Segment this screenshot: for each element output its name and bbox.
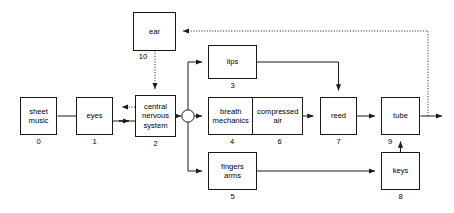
summing-junction xyxy=(182,110,194,122)
node-fingers-arms-line-0: fingers xyxy=(221,162,244,171)
node-tube[interactable]: tube xyxy=(381,97,420,135)
node-fingers-arms[interactable]: fingers arms xyxy=(208,152,257,190)
edge-lips-reed xyxy=(257,62,339,91)
node-eyes-line-0: eyes xyxy=(86,111,102,120)
node-cns-number: 2 xyxy=(135,139,176,148)
node-breath-air-group: breath mechanics compressed air xyxy=(208,97,303,135)
node-breath-mechanics-number: 4 xyxy=(208,137,256,146)
node-cns-line-0: central xyxy=(144,102,167,111)
node-eyes-number: 1 xyxy=(76,137,113,146)
node-central-nervous-system[interactable]: central nervous system xyxy=(135,95,176,137)
node-lips-number: 3 xyxy=(208,81,257,90)
node-sheet-music-line-0: sheet xyxy=(29,107,48,116)
node-breath-mechanics[interactable]: breath mechanics xyxy=(209,98,252,134)
node-tube-line-0: tube xyxy=(393,111,408,120)
block-diagram: sheet music 0 eyes 1 central nervous sys… xyxy=(0,0,454,213)
node-compressed-air-number: 6 xyxy=(256,137,303,146)
node-sheet-music-number: 0 xyxy=(20,137,57,146)
node-eyes[interactable]: eyes xyxy=(76,97,113,135)
node-keys-line-0: keys xyxy=(393,166,409,175)
junction-spine-down xyxy=(188,122,202,171)
node-reed[interactable]: reed xyxy=(320,97,357,135)
node-compressed-air-line-0: compressed xyxy=(257,107,298,116)
node-sheet-music-line-1: music xyxy=(29,116,49,125)
node-reed-line-0: reed xyxy=(331,111,346,120)
node-reed-number: 7 xyxy=(320,137,357,146)
node-breath-mechanics-line-1: mechanics xyxy=(213,116,249,125)
node-fingers-arms-line-1: arms xyxy=(224,171,241,180)
node-ear-number: 10 xyxy=(128,52,158,61)
node-lips-line-0: lips xyxy=(227,57,238,66)
node-breath-mechanics-line-0: breath xyxy=(220,107,242,116)
node-ear-line-0: ear xyxy=(149,27,160,36)
node-compressed-air-line-1: air xyxy=(274,116,282,125)
node-cns-line-2: system xyxy=(143,121,167,130)
node-cns-line-1: nervous xyxy=(142,111,169,120)
node-compressed-air[interactable]: compressed air xyxy=(252,98,302,134)
node-fingers-arms-number: 5 xyxy=(208,192,257,201)
node-tube-number: 9 xyxy=(375,137,405,146)
node-ear[interactable]: ear xyxy=(133,12,176,51)
node-keys[interactable]: keys xyxy=(381,152,420,190)
node-lips[interactable]: lips xyxy=(208,45,257,79)
node-keys-number: 8 xyxy=(381,192,420,201)
node-sheet-music[interactable]: sheet music xyxy=(20,97,57,135)
junction-spine xyxy=(188,62,202,110)
